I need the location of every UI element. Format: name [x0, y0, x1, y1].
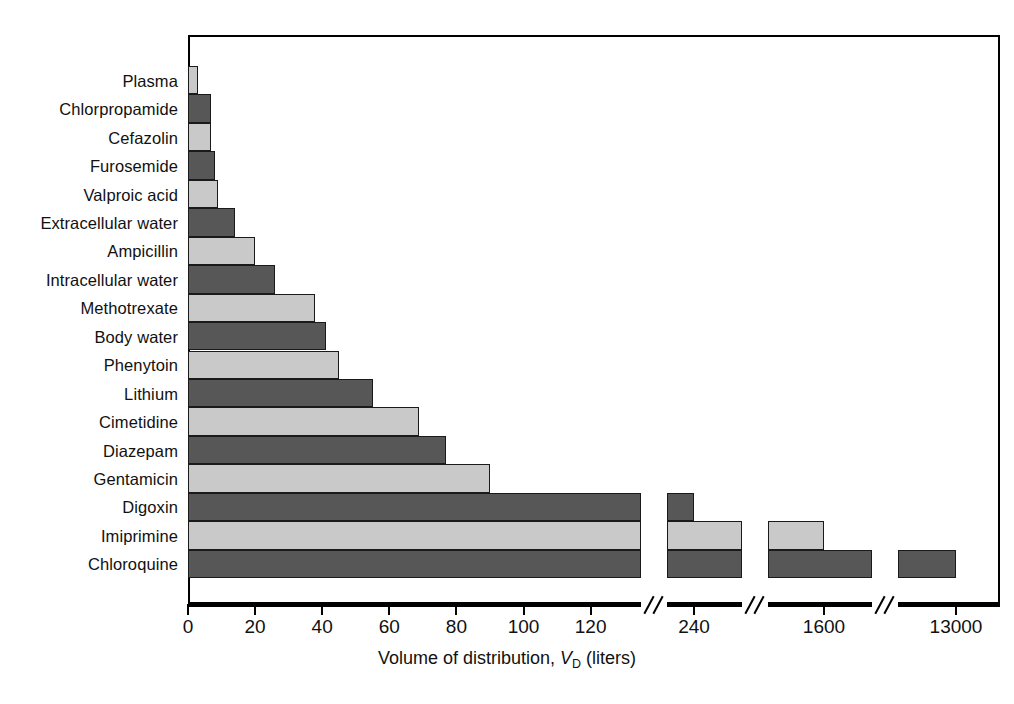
x-tick-label-80: 80 [446, 617, 467, 636]
x-tick-label-240: 240 [678, 617, 710, 636]
category-label: Intracellular water [46, 272, 178, 289]
x-tick-label-40: 40 [312, 617, 333, 636]
x-tick-label-1600: 1600 [803, 617, 845, 636]
chart-figure: PlasmaChlorpropamideCefazolinFurosemideV… [0, 0, 1014, 704]
x-tick-100 [523, 604, 525, 615]
x-axis-title-post: (liters) [581, 648, 636, 668]
x-axis-title-subscript: D [572, 657, 581, 671]
x-axis-title-pre: Volume of distribution, [378, 648, 560, 668]
category-label: Diazepam [103, 443, 178, 460]
x-tick-20 [254, 604, 256, 615]
x-tick-120 [590, 604, 592, 615]
x-tick-label-13000: 13000 [930, 617, 983, 636]
category-label-column: PlasmaChlorpropamideCefazolinFurosemideV… [0, 66, 184, 578]
x-tick-240 [693, 604, 695, 615]
category-label: Chloroquine [88, 556, 178, 573]
plot-frame [188, 35, 1000, 604]
x-axis-title: Volume of distribution, VD (liters) [0, 648, 1014, 671]
category-label: Furosemide [90, 158, 178, 175]
axis-break-mask [742, 602, 768, 607]
axis-break-2 [742, 596, 768, 612]
category-label: Lithium [124, 386, 178, 403]
category-label: Phenytoin [104, 357, 178, 374]
category-label: Methotrexate [80, 300, 178, 317]
x-tick-label-100: 100 [508, 617, 540, 636]
category-label: Plasma [122, 73, 178, 90]
x-tick-0 [187, 604, 189, 615]
category-label: Digoxin [122, 499, 178, 516]
category-label: Cimetidine [99, 414, 178, 431]
x-tick-13000 [955, 604, 957, 615]
x-axis-title-symbol: V [560, 648, 572, 668]
x-tick-1600 [823, 604, 825, 615]
x-tick-80 [455, 604, 457, 615]
axis-break-mask [872, 602, 898, 607]
x-tick-label-120: 120 [575, 617, 607, 636]
x-tick-label-20: 20 [245, 617, 266, 636]
x-tick-label-60: 60 [379, 617, 400, 636]
x-tick-40 [321, 604, 323, 615]
category-label: Extracellular water [40, 215, 178, 232]
category-label: Cefazolin [108, 130, 178, 147]
category-label: Ampicillin [107, 243, 178, 260]
category-label: Chlorpropamide [59, 101, 178, 118]
category-label: Imiprimine [101, 528, 178, 545]
x-tick-label-0: 0 [183, 617, 194, 636]
category-label: Gentamicin [94, 471, 178, 488]
axis-break-mask [641, 602, 667, 607]
axis-break-1 [641, 596, 667, 612]
category-label: Valproic acid [83, 187, 178, 204]
x-tick-60 [388, 604, 390, 615]
axis-break-3 [872, 596, 898, 612]
category-label: Body water [94, 329, 178, 346]
